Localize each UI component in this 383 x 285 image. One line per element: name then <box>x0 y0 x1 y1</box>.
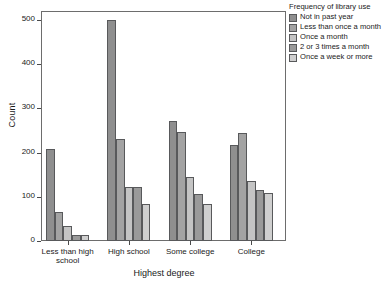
y-axis-label: Count <box>7 85 17 145</box>
bar <box>194 194 203 241</box>
x-tick-mark <box>190 241 191 245</box>
bar <box>116 139 125 241</box>
bar <box>230 145 239 241</box>
chart-root: 0100200300400500 Count Less than highsch… <box>0 0 383 285</box>
bar <box>256 190 265 241</box>
x-tick-mark <box>129 241 130 245</box>
bar <box>238 133 247 241</box>
legend-item-label: Less than once a month <box>300 23 381 32</box>
x-axis-label: Highest degree <box>41 268 287 278</box>
legend-item: Not in past year <box>288 13 383 22</box>
y-tick-label: 200 <box>22 147 35 156</box>
legend-item-label: Once a month <box>300 33 348 42</box>
bar <box>125 187 134 241</box>
bar <box>169 121 178 241</box>
bar <box>55 212 64 241</box>
y-tick-label: 0 <box>31 235 35 244</box>
legend-title: Frequency of library use <box>289 2 383 11</box>
legend-item-label: Once a week or more <box>300 53 373 62</box>
legend-items: Not in past yearLess than once a monthOn… <box>288 13 383 62</box>
bar <box>177 132 186 241</box>
y-tick-label: 500 <box>22 14 35 23</box>
bar <box>63 226 72 241</box>
legend-item: Less than once a month <box>288 23 383 32</box>
legend-swatch <box>289 54 297 62</box>
x-axis: Less than highschoolHigh schoolSome coll… <box>41 241 287 285</box>
legend-swatch <box>289 14 297 22</box>
bar <box>107 20 116 241</box>
legend-item-label: Not in past year <box>300 13 353 22</box>
x-tick-mark <box>251 241 252 245</box>
y-tick-label: 400 <box>22 58 35 67</box>
legend-item: 2 or 3 times a month <box>288 43 383 52</box>
bar <box>203 204 212 241</box>
legend-item: Once a month <box>288 33 383 42</box>
y-tick-label: 100 <box>22 191 35 200</box>
bar-series-container <box>41 11 286 241</box>
bar <box>133 187 142 241</box>
bar <box>247 181 256 241</box>
legend-swatch <box>289 24 297 32</box>
x-tick-mark <box>68 241 69 245</box>
legend-swatch <box>289 44 297 52</box>
legend-item: Once a week or more <box>288 53 383 62</box>
legend-item-label: 2 or 3 times a month <box>300 43 369 52</box>
bar <box>186 177 195 241</box>
x-tick-label: College <box>206 247 296 256</box>
bar <box>142 204 151 241</box>
bar <box>264 193 273 241</box>
y-tick-label: 300 <box>22 102 35 111</box>
bar <box>46 149 55 241</box>
legend: Frequency of library use Not in past yea… <box>288 2 383 63</box>
legend-swatch <box>289 34 297 42</box>
